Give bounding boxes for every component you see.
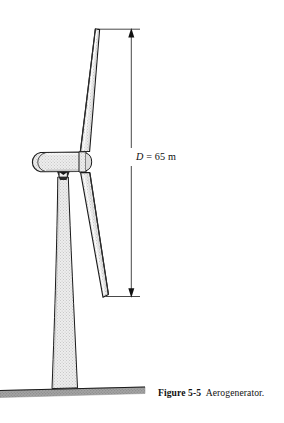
- tower: [52, 177, 78, 389]
- figure-caption: Figure 5-5 Aerogenerator.: [158, 387, 284, 398]
- dimension-value: 65: [155, 151, 166, 162]
- blade-hub-plate: [79, 152, 92, 172]
- figure-caption-label: Figure 5-5: [158, 387, 201, 398]
- nacelle: [32, 152, 81, 172]
- dimension-label: D = 65 m: [136, 151, 176, 162]
- dimension-symbol: D: [136, 151, 144, 162]
- lower-blade: [81, 173, 109, 298]
- ground-band: [0, 387, 145, 398]
- aerogenerator-figure: D = 65 m Figure 5-5 Aerogenerator.: [0, 0, 284, 423]
- dimension-line: [128, 28, 134, 298]
- dimension-unit: m: [168, 151, 176, 162]
- aerogenerator-diagram: [0, 0, 284, 423]
- figure-caption-text: Aerogenerator.: [206, 387, 265, 398]
- dimension-extension-lines: [98, 29, 141, 296]
- upper-blade: [80, 29, 99, 152]
